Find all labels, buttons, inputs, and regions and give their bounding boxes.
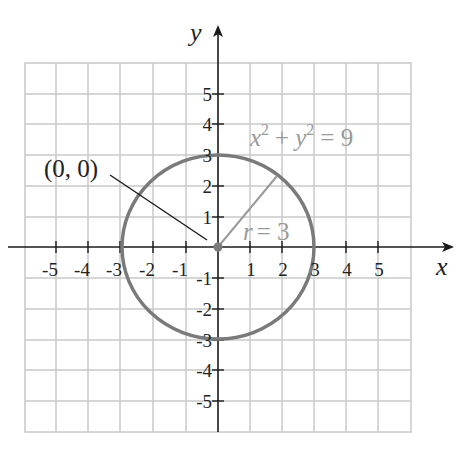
- svg-text:-5: -5: [42, 259, 58, 280]
- svg-text:-4: -4: [196, 360, 212, 381]
- svg-text:5: 5: [374, 259, 384, 280]
- radius-label: r= 3: [243, 218, 290, 245]
- svg-text:-3: -3: [196, 330, 212, 351]
- svg-text:-3: -3: [106, 259, 122, 280]
- equation-label: x2+y2= 9: [249, 121, 353, 151]
- svg-text:x2+y2= 9: x2+y2= 9: [249, 121, 353, 151]
- y-axis-label: y: [187, 18, 202, 47]
- x-tick-labels: -5 -4 -3 -2 -1 1 2 3 4 5: [42, 259, 384, 280]
- svg-text:2: 2: [203, 176, 213, 197]
- svg-text:5: 5: [203, 84, 213, 105]
- svg-text:-2: -2: [196, 299, 212, 320]
- y-tick-labels: 5 4 3 2 1 -1 -2 -3 -4 -5: [196, 84, 212, 412]
- svg-text:4: 4: [342, 259, 352, 280]
- svg-text:2: 2: [278, 259, 288, 280]
- svg-text:3: 3: [203, 145, 213, 166]
- svg-text:-1: -1: [172, 259, 188, 280]
- svg-text:-2: -2: [139, 259, 155, 280]
- svg-text:-4: -4: [74, 259, 90, 280]
- center-label: (0, 0): [44, 155, 98, 183]
- svg-text:1: 1: [246, 259, 256, 280]
- svg-text:3: 3: [310, 259, 320, 280]
- svg-text:r= 3: r= 3: [243, 218, 290, 245]
- coordinate-plane: -5 -4 -3 -2 -1 1 2 3 4 5 5 4 3 2 1 -1 -2…: [0, 0, 467, 458]
- center-point: [214, 243, 223, 252]
- svg-text:1: 1: [203, 207, 213, 228]
- svg-text:-5: -5: [196, 391, 212, 412]
- svg-text:-1: -1: [196, 268, 212, 289]
- x-axis-label: x: [435, 252, 448, 281]
- svg-text:4: 4: [203, 114, 213, 135]
